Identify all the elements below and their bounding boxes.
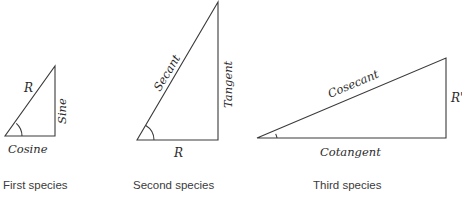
angle-arc-first — [16, 123, 22, 136]
label-cosine: Cosine — [8, 142, 48, 156]
caption-first-species: First species — [3, 179, 68, 191]
caption-second-species: Second species — [133, 179, 214, 191]
triangle-outline-first — [5, 66, 55, 136]
triangle-third-species: Cosecant R' Cotangent Third species — [257, 58, 462, 191]
label-radius-second: R — [173, 146, 183, 160]
triangle-second-species: Secant Tangent R Second species — [133, 2, 235, 191]
triangle-outline-third — [257, 58, 446, 138]
angle-arc-second — [146, 126, 154, 141]
label-secant: Secant — [151, 52, 184, 94]
label-cosecant: Cosecant — [326, 67, 381, 101]
caption-third-species: Third species — [313, 179, 382, 191]
angle-arc-third — [276, 134, 277, 138]
triangle-first-species: R Sine Cosine First species — [3, 66, 69, 191]
label-cotangent: Cotangent — [320, 145, 381, 159]
triangle-outline-second — [137, 2, 218, 140]
trigonometric-species-figure: R Sine Cosine First species Secant Tange… — [0, 0, 462, 201]
figure-canvas: R Sine Cosine First species Secant Tange… — [0, 0, 462, 201]
label-tangent: Tangent — [221, 60, 235, 108]
label-radius-first: R — [23, 81, 33, 95]
label-radius-third: R' — [450, 91, 462, 105]
label-sine: Sine — [55, 98, 69, 124]
